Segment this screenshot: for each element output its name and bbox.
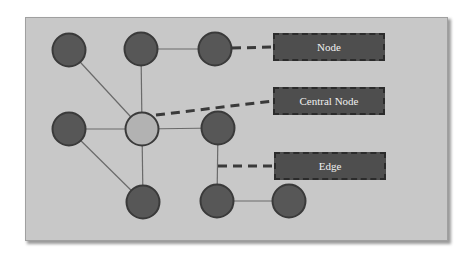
label-edge: Edge: [274, 152, 386, 180]
central-node: [126, 113, 159, 146]
graph-node: [53, 113, 86, 146]
label-edge-text: Edge: [319, 160, 342, 172]
graph-node: [199, 33, 232, 66]
graph-node: [53, 34, 86, 67]
graph-node: [127, 186, 160, 219]
graph-node: [202, 112, 235, 145]
network-diagram: Node Central Node Edge: [0, 0, 474, 262]
label-node-text: Node: [317, 41, 341, 53]
label-connector: [232, 47, 273, 48]
label-central-node-text: Central Node: [300, 95, 359, 107]
label-node: Node: [273, 33, 385, 61]
graph-node: [125, 33, 158, 66]
graph-node: [201, 185, 234, 218]
graph-canvas: [0, 0, 474, 262]
graph-node: [273, 185, 306, 218]
label-central-node: Central Node: [273, 87, 385, 115]
